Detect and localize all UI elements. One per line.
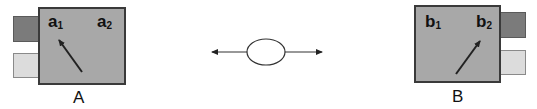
node-b-arrow-icon <box>456 41 480 74</box>
link-ellipse-icon <box>247 39 285 65</box>
node-a-arrow-icon <box>59 40 82 72</box>
diagram-connectors <box>0 0 537 109</box>
